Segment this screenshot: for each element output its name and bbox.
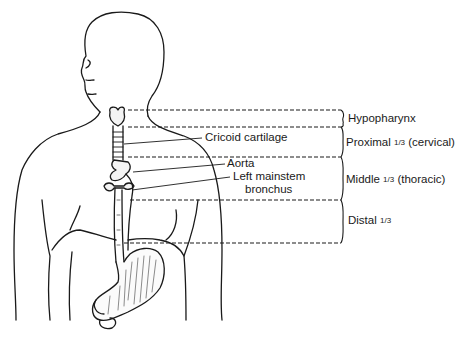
region-name: Hypopharynx xyxy=(348,112,416,124)
trachea xyxy=(113,126,123,160)
region-fraction: 1/3 xyxy=(380,216,391,225)
region-proximal: Proximal 1/3 (cervical) xyxy=(346,136,455,150)
region-fraction: 1/3 xyxy=(383,175,394,184)
region-qualifier: (cervical) xyxy=(408,136,455,148)
region-qualifier: (thoracic) xyxy=(397,173,445,185)
region-fraction: 1/3 xyxy=(394,138,405,147)
region-name: Middle xyxy=(346,173,380,185)
leader-aorta xyxy=(133,164,225,172)
label-left-mainstem: Left mainstem xyxy=(233,170,305,183)
larynx xyxy=(110,107,125,126)
label-cricoid-cartilage: Cricoid cartilage xyxy=(205,131,287,144)
aorta xyxy=(110,160,130,181)
stomach xyxy=(93,248,165,320)
region-distal: Distal 1/3 xyxy=(348,214,391,228)
bronchi xyxy=(104,183,134,191)
region-hypopharynx: Hypopharynx xyxy=(348,112,416,125)
left-shoulder-outline xyxy=(14,112,100,320)
label-aorta: Aorta xyxy=(227,157,255,170)
region-middle: Middle 1/3 (thoracic) xyxy=(346,173,445,187)
region-name: Proximal xyxy=(346,136,391,148)
leader-bronchus xyxy=(132,177,230,190)
region-name: Distal xyxy=(348,214,377,226)
leader-cricoid xyxy=(124,138,202,144)
head-outline xyxy=(81,12,164,116)
esophagus xyxy=(114,188,124,262)
label-bronchus: bronchus xyxy=(245,183,292,196)
region-bracket xyxy=(341,110,344,243)
